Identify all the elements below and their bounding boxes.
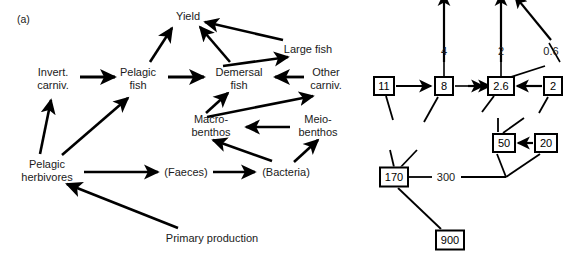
node-yield-label: Yield bbox=[176, 10, 200, 22]
link-26-lower-stub bbox=[482, 96, 494, 112]
node-invert-carniv-line2: carniv. bbox=[37, 78, 69, 91]
node-pelagic-herbivores-line1: Pelagic bbox=[21, 158, 72, 171]
link-junction-to-50 bbox=[497, 154, 506, 177]
node-faeces: (Faeces) bbox=[164, 166, 207, 178]
quantity-box-11: 11 bbox=[373, 76, 395, 96]
flow-label-0-6: 0.6 bbox=[543, 45, 558, 57]
node-meio-benthos: Meio- benthos bbox=[298, 113, 337, 138]
link-11-lower-stub bbox=[386, 96, 393, 120]
node-macro-benthos: Macro- benthos bbox=[191, 113, 230, 138]
link-into-50-diagonal bbox=[503, 118, 524, 133]
quantity-box-170: 170 bbox=[379, 167, 409, 188]
node-demersal-fish: Demersal fish bbox=[215, 66, 262, 91]
node-other-carniv-line1: Other bbox=[310, 66, 342, 79]
node-primary-production-label: Primary production bbox=[166, 232, 258, 244]
quantity-box-20: 20 bbox=[534, 133, 558, 153]
node-primary-production: Primary production bbox=[166, 232, 258, 244]
node-faeces-label: (Faeces) bbox=[164, 166, 207, 178]
node-meio-benthos-line2: benthos bbox=[298, 125, 337, 138]
link-2-lower-stub bbox=[539, 97, 548, 113]
node-pelagic-herbivores: Pelagic herbivores bbox=[21, 158, 72, 183]
node-yield: Yield bbox=[176, 10, 200, 22]
node-large-fish-label: Large fish bbox=[284, 43, 332, 55]
flow-quantity-links bbox=[0, 0, 572, 268]
node-bacteria: (Bacteria) bbox=[262, 166, 310, 178]
node-pelagic-fish-line1: Pelagic bbox=[120, 66, 156, 79]
link-into-170-vertical bbox=[390, 150, 394, 167]
node-pelagic-fish-line2: fish bbox=[120, 78, 156, 91]
node-other-carniv-line2: carniv. bbox=[310, 78, 342, 91]
node-demersal-fish-line2: fish bbox=[215, 78, 262, 91]
node-demersal-fish-line1: Demersal bbox=[215, 66, 262, 79]
node-macro-benthos-line2: benthos bbox=[191, 125, 230, 138]
flow-label-300: 300 bbox=[434, 171, 458, 183]
flow-label-4: 4 bbox=[441, 45, 447, 57]
link-junction-to-20 bbox=[506, 154, 540, 177]
node-pelagic-fish: Pelagic fish bbox=[120, 66, 156, 91]
quantity-box-900: 900 bbox=[435, 230, 465, 251]
node-macro-benthos-line1: Macro- bbox=[191, 113, 230, 126]
link-170-to-900 bbox=[398, 188, 441, 229]
node-bacteria-label: (Bacteria) bbox=[262, 166, 310, 178]
quantity-box-50: 50 bbox=[492, 133, 516, 153]
figure-root: (a) bbox=[0, 0, 572, 268]
link-export-06 bbox=[515, 0, 551, 40]
quantity-box-2: 2 bbox=[543, 76, 563, 96]
quantity-box-2-6: 2.6 bbox=[487, 76, 515, 96]
node-pelagic-herbivores-line2: herbivores bbox=[21, 170, 72, 183]
quantity-box-8: 8 bbox=[434, 76, 454, 96]
node-meio-benthos-line1: Meio- bbox=[298, 113, 337, 126]
node-other-carniv: Other carniv. bbox=[310, 66, 342, 91]
node-invert-carniv: Invert. carniv. bbox=[37, 66, 69, 91]
link-8-lower-stub bbox=[424, 97, 438, 122]
node-invert-carniv-line1: Invert. bbox=[37, 66, 69, 79]
node-large-fish: Large fish bbox=[284, 43, 332, 55]
flow-label-2: 2 bbox=[498, 45, 504, 57]
